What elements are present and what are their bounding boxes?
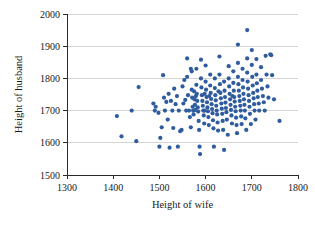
data-point <box>255 81 259 85</box>
data-point <box>209 91 213 95</box>
data-point <box>206 115 210 119</box>
data-point <box>245 71 249 75</box>
data-point <box>272 97 276 101</box>
data-point <box>195 92 199 96</box>
data-point <box>216 120 220 124</box>
data-point <box>197 145 201 149</box>
x-tick-label-1500: 1500 <box>149 182 169 193</box>
data-point <box>202 121 206 125</box>
data-point <box>241 92 245 96</box>
data-point <box>210 102 214 106</box>
data-point <box>197 128 201 132</box>
data-point <box>153 109 157 113</box>
data-point <box>210 111 214 115</box>
data-point <box>244 128 248 132</box>
data-point <box>240 67 244 71</box>
data-point <box>180 84 184 88</box>
y-tick-label-1600: 1600 <box>40 137 60 148</box>
data-point <box>218 82 222 86</box>
data-point <box>215 109 219 113</box>
data-point <box>177 109 181 113</box>
data-point <box>257 109 261 113</box>
data-point <box>259 65 263 69</box>
data-point <box>236 82 240 86</box>
data-point <box>263 109 267 113</box>
data-point <box>137 85 141 89</box>
data-point <box>171 126 175 130</box>
data-point <box>194 67 198 71</box>
y-tick-label-1500: 1500 <box>40 170 60 181</box>
data-point <box>247 105 251 109</box>
data-point <box>237 89 241 93</box>
x-tick-label-1600: 1600 <box>196 182 216 193</box>
data-point <box>256 95 260 99</box>
data-point <box>185 56 189 60</box>
data-point <box>233 105 237 109</box>
data-point <box>204 88 208 92</box>
data-point <box>189 67 193 71</box>
data-point <box>186 93 190 97</box>
data-point <box>254 57 258 61</box>
data-point <box>220 107 224 111</box>
data-point <box>242 103 246 107</box>
data-point <box>217 54 221 58</box>
data-point <box>252 96 256 100</box>
data-point <box>231 81 235 85</box>
data-point <box>158 136 162 140</box>
data-point <box>222 80 226 84</box>
data-point <box>252 102 256 106</box>
data-point <box>205 105 209 109</box>
data-point <box>264 54 268 58</box>
x-axis-title: Height of wife <box>152 199 214 210</box>
data-point <box>213 76 217 80</box>
data-point <box>236 75 240 79</box>
data-point <box>157 145 161 149</box>
data-point <box>264 72 268 76</box>
data-point <box>245 56 249 60</box>
data-point <box>237 94 241 98</box>
data-point <box>211 118 215 122</box>
data-point <box>234 109 238 113</box>
x-tick-label-1400: 1400 <box>103 182 123 193</box>
data-point <box>250 75 254 79</box>
data-point <box>242 97 246 101</box>
data-point <box>205 100 209 104</box>
data-point <box>236 61 240 65</box>
data-point <box>188 115 192 119</box>
data-point <box>236 42 240 46</box>
y-tick-label-1900: 1900 <box>40 41 60 52</box>
data-point <box>130 109 134 113</box>
data-points-group <box>115 28 282 156</box>
data-point <box>277 119 281 123</box>
data-point <box>235 131 239 135</box>
data-point <box>234 123 238 127</box>
data-point <box>266 96 270 100</box>
data-point <box>261 94 265 98</box>
data-point <box>220 112 224 116</box>
data-point <box>229 113 233 117</box>
data-point <box>219 96 223 100</box>
data-point <box>209 97 213 101</box>
data-point <box>199 85 203 89</box>
data-point <box>250 63 254 67</box>
data-point <box>197 119 201 123</box>
data-point <box>204 63 208 67</box>
data-point <box>247 99 251 103</box>
data-point <box>213 86 217 90</box>
data-point <box>231 69 235 73</box>
data-point <box>202 113 206 117</box>
data-point <box>189 125 193 129</box>
data-point <box>226 133 230 137</box>
data-point <box>166 118 170 122</box>
data-point <box>201 104 205 108</box>
data-point <box>246 87 250 91</box>
data-point <box>156 111 160 115</box>
data-point <box>217 72 221 76</box>
data-point <box>115 114 119 118</box>
data-point <box>225 118 229 122</box>
y-axis-title: Height of husband <box>13 55 24 133</box>
data-point <box>172 87 176 91</box>
data-point <box>251 91 255 95</box>
data-point <box>260 87 264 91</box>
data-point <box>257 101 261 105</box>
